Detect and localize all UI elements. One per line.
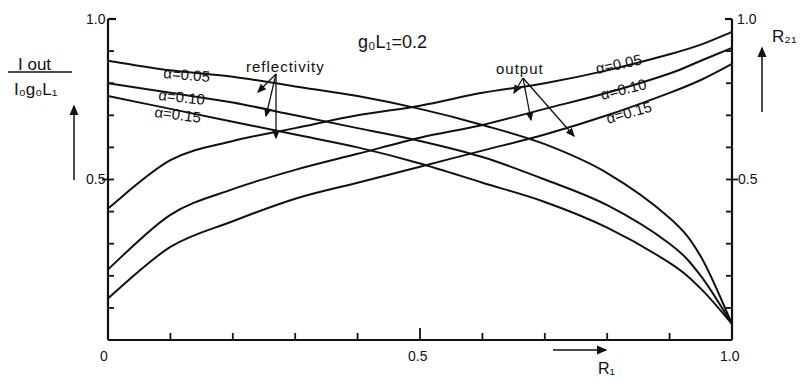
output-annotation: output xyxy=(496,60,544,77)
tick-label-right-05: 0.5 xyxy=(738,171,758,187)
reflectivity-curve-alpha-015 xyxy=(108,96,732,324)
tick-label-left-1: 1.0 xyxy=(86,11,106,27)
reflectivity-annotation: reflectivity xyxy=(246,58,325,75)
refl-label-a005: α=0.05 xyxy=(163,64,211,85)
y-left-label-denominator: I₀g₀L₁ xyxy=(14,80,58,99)
y-right-label: R₂₁ xyxy=(772,27,797,46)
out-label-a010: α=0.10 xyxy=(599,75,648,103)
out-label-a005: α=0.05 xyxy=(594,51,643,77)
tick-label-x-0: 0 xyxy=(100,348,108,364)
chart-canvas: 1.0 0.5 1.0 0.5 0 0.5 1.0 I out I₀g₀L₁ R… xyxy=(0,0,811,382)
chart-title: g₀L₁=0.2 xyxy=(358,32,427,52)
out-label-a015: α=0.15 xyxy=(604,98,654,127)
x-axis-label: R₁ xyxy=(598,360,615,377)
tick-label-left-05: 0.5 xyxy=(86,171,106,187)
y-left-label-numerator: I out xyxy=(18,55,51,74)
tick-label-x-05: 0.5 xyxy=(408,348,428,364)
reflectivity-curve-alpha-010 xyxy=(108,83,732,324)
tick-label-x-1: 1.0 xyxy=(720,348,740,364)
tick-label-right-1: 1.0 xyxy=(737,11,757,27)
